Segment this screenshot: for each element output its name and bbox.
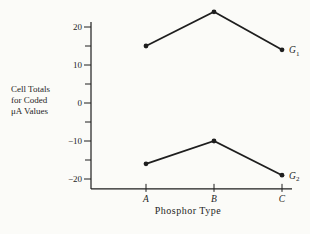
x-category-label-C: C xyxy=(279,194,286,204)
y-tick-label: 10 xyxy=(73,60,83,70)
data-point-G2 xyxy=(212,139,217,144)
y-tick-label: −10 xyxy=(68,136,83,146)
series-label-G2: G2 xyxy=(289,171,300,184)
data-point-G2 xyxy=(280,173,285,178)
data-point-G1 xyxy=(212,9,217,14)
y-tick-label: −20 xyxy=(68,174,83,184)
interaction-plot-figure: Cell Totals for Coded μA Values 20100−10… xyxy=(0,0,310,234)
series-line-G1 xyxy=(146,12,282,50)
data-point-G1 xyxy=(144,44,149,49)
data-point-G1 xyxy=(280,47,285,52)
series-label-subscript: 2 xyxy=(296,175,300,183)
y-tick-label: 0 xyxy=(78,98,83,108)
series-label-G1: G1 xyxy=(289,45,300,58)
x-category-label-A: A xyxy=(142,194,149,204)
x-axis-title: Phosphor Type xyxy=(127,205,249,216)
series-line-G2 xyxy=(146,141,282,175)
y-tick-label: 20 xyxy=(73,22,83,32)
x-category-label-B: B xyxy=(211,194,217,204)
data-point-G2 xyxy=(144,161,149,166)
series-label-subscript: 1 xyxy=(296,50,300,58)
chart-canvas: 20100−10−20ABCG1G2 xyxy=(0,0,310,234)
